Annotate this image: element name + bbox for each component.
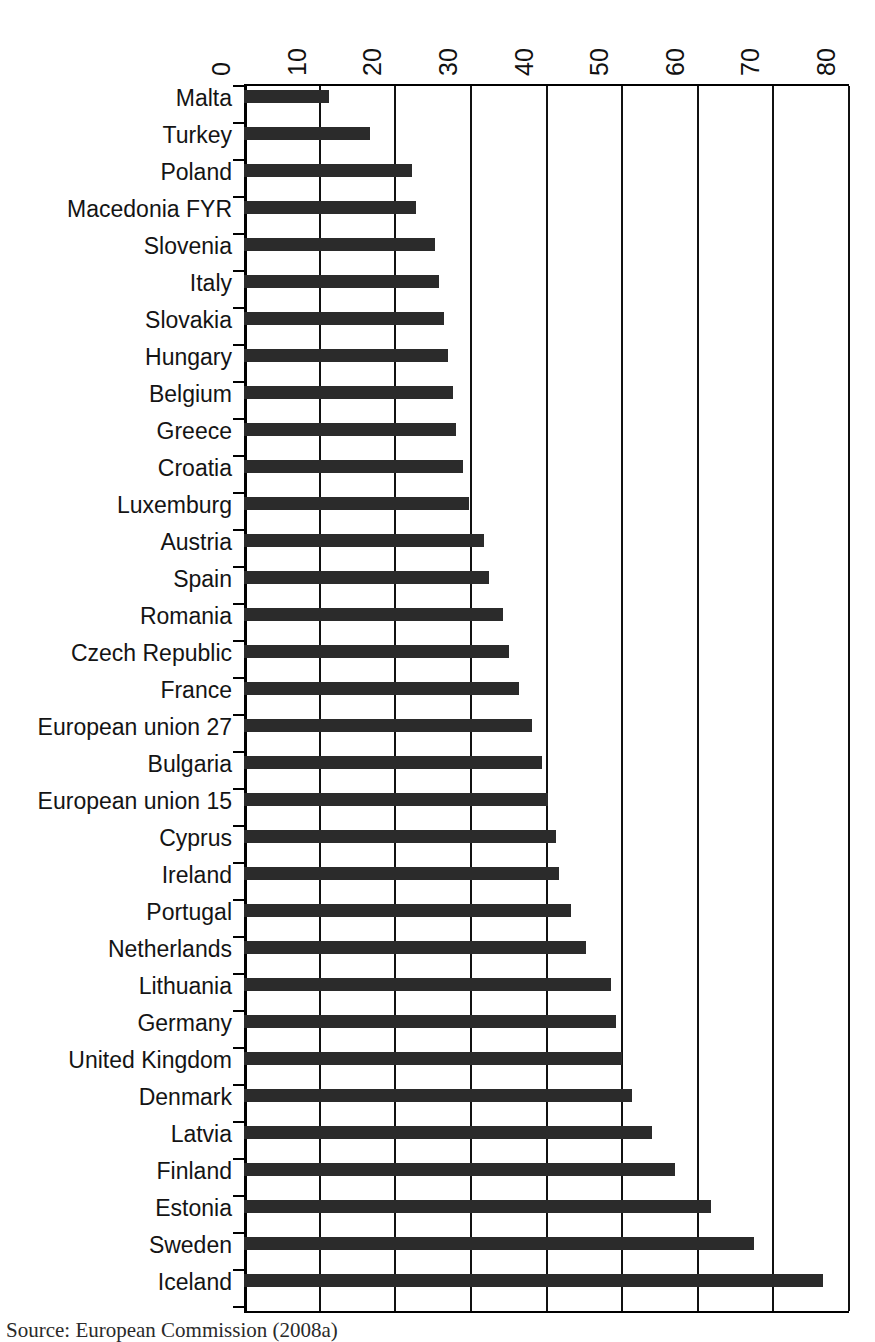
category-tick bbox=[233, 233, 244, 235]
bar bbox=[244, 349, 448, 362]
bar bbox=[244, 90, 329, 103]
bar bbox=[244, 1052, 622, 1065]
category-tick bbox=[233, 714, 244, 716]
x-tick-label: 50 bbox=[586, 16, 612, 76]
bar bbox=[244, 1237, 754, 1250]
category-label: Estonia bbox=[0, 1195, 232, 1221]
x-tick-label: 80 bbox=[813, 16, 839, 76]
bar bbox=[244, 867, 559, 880]
category-tick bbox=[233, 1084, 244, 1086]
category-tick bbox=[233, 196, 244, 198]
bar bbox=[244, 978, 611, 991]
category-tick bbox=[233, 1232, 244, 1234]
gridline bbox=[848, 86, 850, 1311]
category-tick bbox=[233, 85, 244, 87]
category-label: Latvia bbox=[0, 1121, 232, 1147]
category-tick bbox=[233, 788, 244, 790]
category-tick bbox=[233, 122, 244, 124]
category-tick bbox=[233, 270, 244, 272]
category-tick bbox=[233, 603, 244, 605]
category-label: Romania bbox=[0, 603, 232, 629]
category-tick bbox=[233, 529, 244, 531]
category-tick bbox=[233, 1269, 244, 1271]
category-label: Malta bbox=[0, 85, 232, 111]
x-tick-label: 40 bbox=[511, 16, 537, 76]
bar bbox=[244, 164, 412, 177]
bar bbox=[244, 312, 444, 325]
bar bbox=[244, 497, 469, 510]
category-label: Lithuania bbox=[0, 973, 232, 999]
bar bbox=[244, 571, 489, 584]
category-label: Poland bbox=[0, 159, 232, 185]
gridline bbox=[772, 86, 774, 1311]
bar bbox=[244, 534, 484, 547]
bar bbox=[244, 719, 532, 732]
bar bbox=[244, 460, 463, 473]
bar bbox=[244, 645, 509, 658]
category-label: Netherlands bbox=[0, 936, 232, 962]
category-tick bbox=[233, 381, 244, 383]
category-tick bbox=[233, 1195, 244, 1197]
category-label: United Kingdom bbox=[0, 1047, 232, 1073]
category-label: European union 27 bbox=[0, 714, 232, 740]
bar bbox=[244, 830, 556, 843]
bar bbox=[244, 201, 416, 214]
category-tick bbox=[233, 862, 244, 864]
category-tick bbox=[233, 492, 244, 494]
bar bbox=[244, 941, 586, 954]
category-tick bbox=[233, 1158, 244, 1160]
x-axis-tick-labels: 01020304050607080 bbox=[0, 0, 875, 84]
bar bbox=[244, 1015, 616, 1028]
bar bbox=[244, 756, 542, 769]
bar bbox=[244, 1089, 632, 1102]
category-label: Denmark bbox=[0, 1084, 232, 1110]
category-tick bbox=[233, 159, 244, 161]
bar bbox=[244, 238, 435, 251]
bar bbox=[244, 275, 439, 288]
bar bbox=[244, 423, 456, 436]
category-label: Cyprus bbox=[0, 825, 232, 851]
category-label: Turkey bbox=[0, 122, 232, 148]
category-label: Sweden bbox=[0, 1232, 232, 1258]
category-tick bbox=[233, 640, 244, 642]
category-label: Macedonia FYR bbox=[0, 196, 232, 222]
bar bbox=[244, 127, 370, 140]
category-tick bbox=[233, 1047, 244, 1049]
category-label: Iceland bbox=[0, 1269, 232, 1295]
bar bbox=[244, 608, 503, 621]
category-tick bbox=[233, 307, 244, 309]
x-tick-label: 30 bbox=[435, 16, 461, 76]
category-label: Belgium bbox=[0, 381, 232, 407]
category-label: Greece bbox=[0, 418, 232, 444]
category-label: Hungary bbox=[0, 344, 232, 370]
category-tick bbox=[233, 899, 244, 901]
category-tick bbox=[233, 1121, 244, 1123]
category-label: Portugal bbox=[0, 899, 232, 925]
category-label: Luxemburg bbox=[0, 492, 232, 518]
chart-page: 01020304050607080 MaltaTurkeyPolandMaced… bbox=[0, 0, 875, 1342]
category-label: Finland bbox=[0, 1158, 232, 1184]
category-label: Bulgaria bbox=[0, 751, 232, 777]
bar bbox=[244, 1126, 652, 1139]
category-label: Slovenia bbox=[0, 233, 232, 259]
category-tick bbox=[233, 1306, 244, 1308]
category-label: Czech Republic bbox=[0, 640, 232, 666]
category-tick bbox=[233, 566, 244, 568]
bar bbox=[244, 682, 519, 695]
bar bbox=[244, 1163, 675, 1176]
category-tick bbox=[233, 751, 244, 753]
plot-area bbox=[244, 84, 849, 1313]
category-label: Italy bbox=[0, 270, 232, 296]
x-tick-label: 20 bbox=[359, 16, 385, 76]
category-label: Germany bbox=[0, 1010, 232, 1036]
bar bbox=[244, 1200, 711, 1213]
category-tick bbox=[233, 677, 244, 679]
bar bbox=[244, 1274, 823, 1287]
x-tick-label: 70 bbox=[737, 16, 763, 76]
bar bbox=[244, 386, 453, 399]
category-tick bbox=[233, 418, 244, 420]
category-tick bbox=[233, 973, 244, 975]
bar-chart: 01020304050607080 MaltaTurkeyPolandMaced… bbox=[0, 0, 875, 1318]
category-tick bbox=[233, 344, 244, 346]
category-tick bbox=[233, 825, 244, 827]
